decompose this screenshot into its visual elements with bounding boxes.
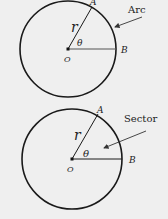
sector-callout-arrow: [104, 131, 146, 148]
sector-callout-label: Sector: [124, 113, 157, 124]
sector-figure: A B O r θ Sector: [22, 105, 157, 209]
arc-callout-label: Arc: [127, 4, 146, 15]
point-b-label: B: [120, 45, 128, 55]
point-b-label: B: [128, 155, 136, 165]
center-point: [67, 48, 70, 51]
circle-diagrams: A B O r θ Arc A B O r θ Sector: [0, 0, 168, 219]
center-label: O: [64, 55, 71, 64]
point-a-label: A: [96, 105, 104, 115]
arc-figure: A B O r θ Arc: [20, 0, 146, 97]
center-label: O: [67, 165, 74, 174]
point-a-label: A: [89, 0, 97, 7]
center-point: [71, 158, 74, 161]
angle-label: θ: [83, 148, 89, 159]
arc-callout-arrow: [115, 17, 142, 27]
angle-label: θ: [77, 38, 83, 48]
radius-label: r: [74, 127, 82, 143]
